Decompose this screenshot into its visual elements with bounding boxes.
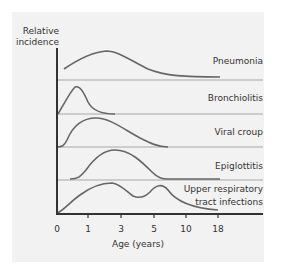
curve-viral-croup — [57, 118, 168, 147]
series-label-urti-line2: tract infections — [195, 197, 263, 207]
series-label-urti-line1: Upper respiratory — [184, 184, 264, 194]
series-label-epiglottitis: Epiglottitis — [215, 161, 263, 171]
tick-label-0: 0 — [54, 224, 60, 234]
curve-epiglottitis — [70, 150, 220, 179]
series-label-viral-croup: Viral croup — [215, 127, 264, 137]
tick-label-3: 3 — [118, 224, 124, 234]
x-axis-label: Age (years) — [112, 239, 164, 249]
series-label-pneumonia: Pneumonia — [213, 56, 263, 66]
series-label-bronchiolitis: Bronchiolitis — [208, 93, 264, 103]
tick-label-18: 18 — [212, 224, 224, 234]
tick-label-10: 10 — [180, 224, 192, 234]
curve-bronchiolitis — [58, 87, 115, 114]
y-axis-label-line2: incidence — [16, 37, 60, 47]
tick-label-1: 1 — [85, 224, 91, 234]
curve-pneumonia — [64, 51, 220, 77]
y-axis-label-line1: Relative — [23, 26, 60, 36]
ridgeline-chart: 0 1 3 5 10 18 Age (years) Relative incid… — [0, 0, 284, 270]
tick-label-5: 5 — [151, 224, 157, 234]
